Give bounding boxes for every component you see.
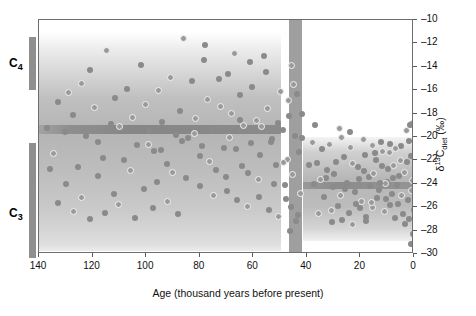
y-axis-tick-label: –16 [421,83,438,95]
x-axis-tick [92,253,93,257]
data-point [87,216,93,222]
data-point [116,123,123,130]
data-point [312,122,318,128]
data-point [244,203,251,210]
data-point [141,186,147,192]
chart-figure: C4 C3 140120100806040200 –10–12–14–16–18… [0,0,476,316]
y-axis-tick [413,113,417,114]
data-point [326,141,333,148]
data-point [292,133,298,139]
data-point [159,119,165,125]
data-point [282,182,288,188]
data-point [299,111,305,117]
data-point [224,188,230,194]
data-point [369,142,376,149]
data-point [329,219,335,225]
data-point [333,159,339,165]
data-point [266,207,272,213]
data-point [164,161,170,167]
data-point [337,192,344,199]
data-point [197,183,203,189]
data-point [392,215,398,221]
data-point [83,133,89,139]
data-point [299,135,305,141]
data-point [338,134,345,141]
data-point [283,196,289,202]
data-point [249,84,255,90]
data-point [385,166,391,172]
x-axis-tick-label: 80 [179,260,219,271]
data-point [231,50,238,57]
data-point [383,196,389,202]
data-point [258,123,265,130]
data-point [169,169,176,176]
data-point [237,117,243,123]
data-point [145,141,152,148]
y-axis-tick-label: –24 [421,177,438,189]
x-axis-title: Age (thousand years before present) [0,287,476,299]
data-point [288,204,294,210]
y-axis-tick-label: –28 [421,224,438,236]
y-axis-tick [413,42,417,43]
data-point [288,62,295,69]
data-point [280,159,287,166]
data-point [226,134,233,141]
data-point [335,203,341,209]
y-axis-tick [413,230,417,231]
x-axis-tick [199,253,200,257]
c3-marker-bar [29,143,36,258]
data-point [154,179,160,185]
x-axis-tick [38,253,39,257]
data-point [352,189,358,195]
data-point [275,120,281,126]
x-axis-tick-label: 120 [72,260,112,271]
data-point [209,126,215,132]
data-point [263,69,269,75]
data-point [314,160,320,166]
c3-marker-label: C3 [9,206,23,222]
data-point [197,153,203,159]
x-axis-tick-label: 0 [393,260,433,271]
data-point [201,57,207,63]
data-point [408,153,413,159]
y-axis-tick-label: –12 [421,36,438,48]
data-point [297,190,304,197]
data-point [347,129,353,135]
data-point [408,187,413,194]
y-axis-title-element: C [434,150,446,158]
data-point [240,122,247,129]
c3-subscript: 3 [18,212,23,222]
data-point [256,194,262,200]
data-point [336,125,343,132]
data-point [296,149,302,155]
data-point [378,139,384,145]
data-point [290,81,297,88]
data-point [324,167,330,173]
data-point [127,167,134,174]
data-point [408,241,413,247]
y-axis-tick-label: –26 [421,200,438,212]
data-point [102,210,108,216]
data-point [233,146,239,152]
data-point [311,181,317,187]
x-axis-tick-label: 140 [18,260,58,271]
data-point [360,136,367,143]
y-axis-tick [413,136,417,137]
data-point [248,140,254,146]
data-point [363,218,369,224]
data-point [285,97,292,104]
data-point [376,187,382,193]
data-point [321,194,327,200]
data-point [397,157,404,164]
data-point [271,181,277,187]
x-axis-tick-label: 40 [286,260,326,271]
y-axis-tick-label: –14 [421,60,438,72]
data-point [164,198,171,205]
data-point [91,104,98,111]
data-point [115,201,122,208]
y-axis-tick [413,89,417,90]
data-point [346,210,352,216]
data-point [191,130,198,137]
y-axis-title: δ13Cdiet (‰) [433,117,450,171]
data-point [213,167,219,173]
